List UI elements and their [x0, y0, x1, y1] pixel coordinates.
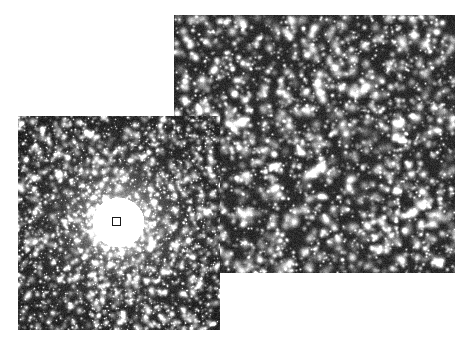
- core-region-marker: [112, 217, 121, 226]
- figure-root: Two overlapping grayscale astronomical i…: [0, 0, 471, 344]
